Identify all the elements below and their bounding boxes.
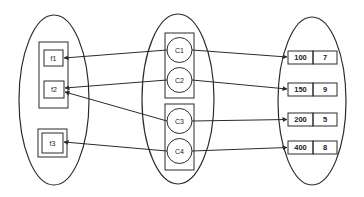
record-200-key: 200 xyxy=(294,115,307,124)
middle-set: C1 C2 C3 C4 xyxy=(142,14,214,184)
record-150-key: 150 xyxy=(294,85,307,94)
node-c1[interactable]: C1 xyxy=(167,38,192,63)
edge-c1-record-100 xyxy=(192,50,287,57)
set-mapping-diagram: f1 f2 f3 C1 C2 C3 xyxy=(0,0,364,197)
record-400-key: 400 xyxy=(294,143,307,152)
node-c4-label: C4 xyxy=(175,148,184,155)
node-f2[interactable]: f2 xyxy=(44,81,64,98)
left-set: f1 f2 f3 xyxy=(19,15,89,185)
node-f3[interactable]: f3 xyxy=(42,133,63,153)
left-set-ellipse xyxy=(19,15,89,185)
middle-set-ellipse xyxy=(142,14,214,184)
node-f2-label: f2 xyxy=(51,86,57,93)
edge-c4-f3 xyxy=(64,142,167,151)
edge-c4-record-400 xyxy=(192,148,287,152)
record-150[interactable]: 150 9 xyxy=(288,83,337,96)
record-100-key: 100 xyxy=(294,53,307,62)
edge-c2-record-150 xyxy=(192,80,287,89)
record-200[interactable]: 200 5 xyxy=(288,113,337,126)
edge-c1-f1 xyxy=(64,50,167,58)
node-f1-label: f1 xyxy=(51,55,57,62)
edge-c2-f2 xyxy=(65,80,167,88)
edges xyxy=(64,50,287,151)
node-c2-label: C2 xyxy=(175,77,184,84)
node-f3-label: f3 xyxy=(50,140,56,147)
node-f1[interactable]: f1 xyxy=(44,50,63,66)
record-100-value: 7 xyxy=(323,53,327,62)
edge-c3-record-200 xyxy=(192,120,287,122)
right-set: 100 7 150 9 200 5 400 8 xyxy=(278,17,346,185)
record-150-value: 9 xyxy=(323,85,327,94)
edge-c3-f2 xyxy=(65,92,167,121)
record-400-value: 8 xyxy=(323,143,327,152)
node-c2[interactable]: C2 xyxy=(167,68,192,93)
node-c4[interactable]: C4 xyxy=(167,139,192,164)
node-c1-label: C1 xyxy=(175,47,184,54)
node-c3[interactable]: C3 xyxy=(167,109,192,134)
right-set-ellipse xyxy=(278,17,346,185)
record-200-value: 5 xyxy=(323,115,327,124)
record-400[interactable]: 400 8 xyxy=(288,141,337,154)
record-100[interactable]: 100 7 xyxy=(288,51,337,64)
node-c3-label: C3 xyxy=(175,118,184,125)
